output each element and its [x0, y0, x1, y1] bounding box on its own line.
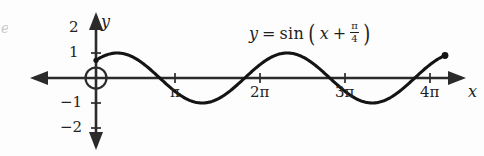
equation-argument-var: x — [320, 24, 329, 43]
x-tick-label-2pi: 2π — [250, 85, 269, 100]
x-tick-label-4pi: 4π — [420, 85, 439, 100]
x-tick-label-3pi: 3π — [335, 85, 354, 100]
equation-lhs: y — [249, 24, 258, 43]
fraction-numerator: π — [350, 21, 359, 31]
x-tick-label-pi: π — [170, 85, 180, 100]
equation-plus: + — [332, 24, 347, 43]
x-axis-label: x — [468, 84, 477, 100]
equation-annotation: y = sin ( x + π 4 ) — [249, 22, 372, 45]
y-tick-label-1: 1 — [69, 45, 79, 60]
y-axis-label: y — [101, 14, 110, 30]
x-axis-left-arrow — [30, 71, 48, 85]
equation-equals: = — [261, 24, 276, 43]
fraction-denominator: 4 — [350, 34, 358, 44]
equation-open-paren: ( — [308, 24, 315, 44]
x-axis-right-arrow — [448, 71, 466, 85]
y-tick-label-minus1: −1 — [60, 95, 82, 110]
curve-start-point — [93, 58, 98, 63]
y-axis-bottom-arrow — [89, 132, 103, 150]
y-tick-label-minus2: −2 — [60, 120, 82, 135]
curve-end-point — [442, 52, 449, 59]
y-tick-label-2: 2 — [69, 20, 79, 35]
equation-fraction: π 4 — [350, 21, 359, 44]
equation-close-paren: ) — [363, 24, 370, 44]
graph-figure: e 2 1 −1 −2 π 2π 3π 4π — [0, 0, 484, 156]
equation-function-name: sin — [279, 24, 304, 43]
